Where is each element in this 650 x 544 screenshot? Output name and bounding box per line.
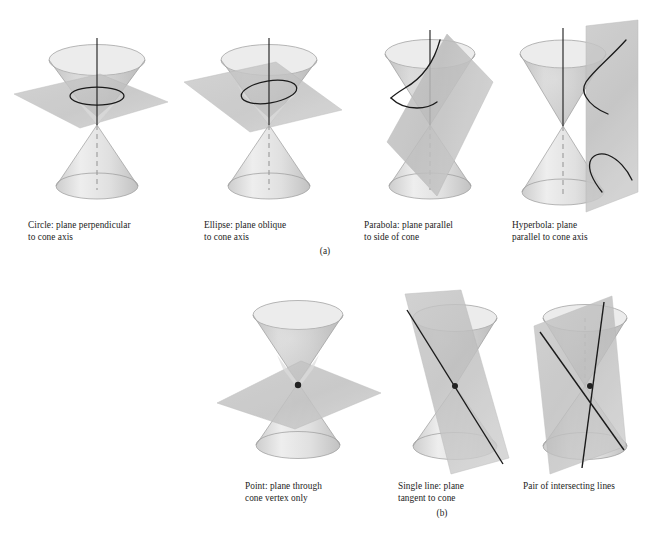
vertex-dot bbox=[295, 382, 301, 388]
lower-nappe-base bbox=[228, 173, 310, 199]
panel-hyperbola bbox=[490, 14, 650, 219]
single-line-cone-diagram bbox=[385, 288, 535, 478]
caption-point: Point: plane through cone vertex only bbox=[245, 480, 395, 504]
point-cone-diagram bbox=[215, 293, 385, 473]
panel-ellipse bbox=[180, 18, 345, 218]
row-label-a: (a) bbox=[295, 246, 355, 256]
vertex-dot bbox=[587, 383, 593, 389]
intersecting-lines-cone-diagram bbox=[520, 288, 650, 478]
panel-circle bbox=[8, 18, 173, 218]
hyperbola-cone-diagram bbox=[490, 14, 650, 219]
ellipse-cone-diagram bbox=[180, 18, 345, 218]
cutting-plane bbox=[14, 74, 168, 128]
panel-parabola bbox=[345, 18, 510, 218]
panel-intersecting-lines bbox=[520, 288, 650, 478]
circle-cone-diagram bbox=[8, 18, 173, 218]
caption-circle: Circle: plane perpendicular to cone axis bbox=[28, 219, 178, 243]
cutting-plane bbox=[217, 361, 381, 429]
cutting-plane bbox=[586, 20, 638, 212]
lower-nappe-base bbox=[56, 173, 138, 199]
panel-point bbox=[215, 293, 385, 473]
caption-parabola: Parabola: plane parallel to side of cone bbox=[364, 219, 524, 243]
row-label-b: (b) bbox=[412, 508, 472, 518]
lower-nappe-base bbox=[256, 432, 340, 459]
panel-single-line bbox=[385, 288, 535, 478]
upper-nappe-rim bbox=[253, 301, 343, 330]
caption-intersecting-lines: Pair of intersecting lines bbox=[523, 480, 650, 492]
vertex-dot bbox=[452, 383, 458, 389]
caption-single-line: Single line: plane tangent to cone bbox=[398, 480, 538, 504]
caption-hyperbola: Hyperbola: plane parallel to cone axis bbox=[512, 219, 650, 243]
parabola-cone-diagram bbox=[345, 18, 510, 218]
caption-ellipse: Ellipse: plane oblique to cone axis bbox=[204, 219, 354, 243]
cutting-plane bbox=[184, 62, 342, 132]
cutting-plane bbox=[534, 296, 626, 474]
conic-sections-figure: Circle: plane perpendicular to cone axis bbox=[0, 0, 650, 544]
